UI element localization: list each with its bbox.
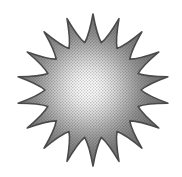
image-canvas: Sunburst Star Clipart (0, 0, 182, 177)
sunburst-illustration (0, 0, 182, 177)
